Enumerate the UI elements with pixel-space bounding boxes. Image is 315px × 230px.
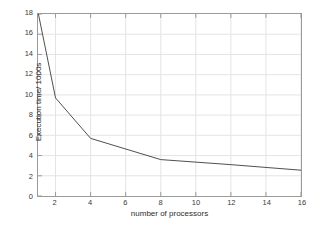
x-tick-label: 2 <box>40 199 70 207</box>
y-tick-label: 12 <box>0 70 33 78</box>
y-tick-label: 0 <box>0 193 33 201</box>
y-tick-label: 8 <box>0 111 33 119</box>
y-tick-label: 10 <box>0 91 33 99</box>
y-axis-label: Execution time/ 1000s <box>35 10 43 194</box>
y-tick-label: 16 <box>0 29 33 37</box>
y-tick-label: 4 <box>0 152 33 160</box>
y-tick-label: 18 <box>0 9 33 17</box>
x-tick-label: 10 <box>181 199 211 207</box>
y-tick-label: 14 <box>0 50 33 58</box>
x-tick-label: 8 <box>146 199 176 207</box>
chart-figure: 024681012141618 246810121416 number of p… <box>0 0 315 230</box>
x-tick-label: 16 <box>287 199 315 207</box>
y-tick-label: 6 <box>0 132 33 140</box>
x-tick-label: 12 <box>216 199 246 207</box>
x-tick-label: 6 <box>110 199 140 207</box>
y-tick-label: 2 <box>0 173 33 181</box>
x-tick-label: 14 <box>252 199 282 207</box>
data-series-line <box>38 14 301 196</box>
x-tick-label: 4 <box>75 199 105 207</box>
x-axis-label: number of processors <box>37 210 302 218</box>
plot-area <box>37 13 302 197</box>
